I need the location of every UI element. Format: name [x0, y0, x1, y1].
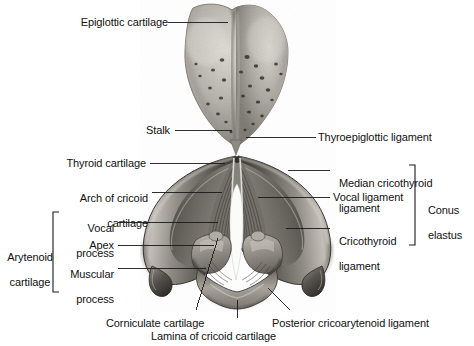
label-lamina-of-cricoid-cartilage: Lamina of cricoid cartilage	[151, 330, 331, 343]
label-arytenoid-cartilage: Arytenoid cartilage	[2, 238, 52, 288]
label-stalk: Stalk	[100, 124, 170, 137]
label-muscular-process: Muscular process	[54, 255, 114, 305]
label-conus-elastus: Conus elastus	[422, 191, 474, 241]
label-median-cricothyroid-ligament: Median cricothyroid ligament	[333, 164, 409, 214]
label-posterior-cricoarytenoid-ligament: Posterior cricoarytenoid ligament	[272, 317, 472, 330]
label-thyroid-cartilage: Thyroid cartilage	[50, 157, 146, 170]
label-cricothyroid-ligament: Cricothyroid ligament	[333, 222, 409, 272]
label-apex: Apex	[62, 239, 114, 252]
label-epiglottic-cartilage: Epiglottic cartilage	[44, 16, 168, 29]
label-vocal-ligament: Vocal ligament	[333, 191, 423, 204]
label-vocal-process: Vocal process	[62, 209, 114, 259]
specimen-photograph	[140, 0, 336, 312]
label-corniculate-cartilage: Corniculate cartilage	[106, 317, 256, 330]
label-thyroepiglottic-ligament: Thyroepiglottic ligament	[318, 131, 474, 144]
